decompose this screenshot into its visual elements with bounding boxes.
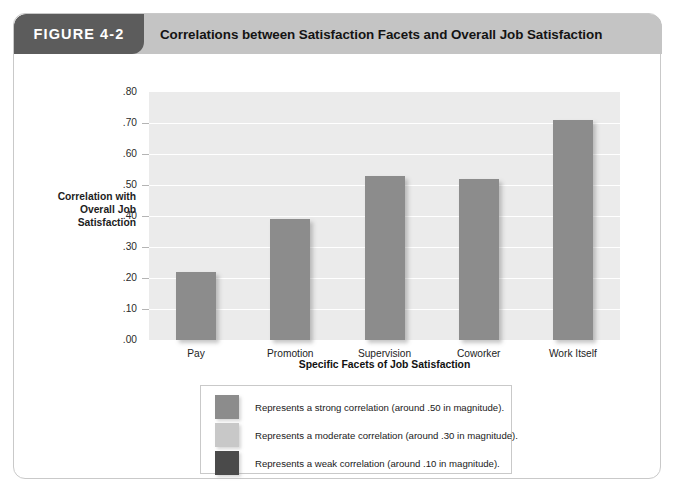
y-axis-tick-mark (142, 216, 149, 217)
y-axis-tick-mark (142, 154, 149, 155)
y-axis-tick-label: .30 (103, 241, 137, 252)
legend-item: Represents a moderate correlation (aroun… (215, 423, 505, 447)
chart-region: Correlation withOverall JobSatisfaction … (14, 54, 662, 364)
legend-label: Represents a moderate correlation (aroun… (255, 430, 518, 441)
y-axis-tick-label: .70 (103, 117, 137, 128)
y-axis-tick-label: .40 (103, 210, 137, 221)
bar (365, 176, 405, 340)
y-axis-tick-label: .00 (103, 334, 137, 345)
figure-header: FIGURE 4-2 Correlations between Satisfac… (14, 14, 662, 54)
y-axis-title-line: Correlation with (24, 190, 136, 203)
y-axis-tick-mark (142, 278, 149, 279)
figure-title: Correlations between Satisfaction Facets… (160, 14, 602, 54)
bar (270, 219, 310, 340)
figure-number-label: FIGURE 4-2 (34, 26, 125, 42)
legend-item: Represents a strong correlation (around … (215, 395, 505, 419)
y-axis-tick-mark (142, 309, 149, 310)
y-axis-tick-label: .50 (103, 179, 137, 190)
gridline (149, 154, 620, 155)
legend-swatch (215, 395, 239, 419)
legend-label: Represents a strong correlation (around … (255, 402, 504, 413)
y-axis-tick-label: .10 (103, 303, 137, 314)
figure-number-badge: FIGURE 4-2 (14, 14, 144, 54)
legend-swatch (215, 423, 239, 447)
legend: Represents a strong correlation (around … (200, 385, 512, 474)
y-axis-tick-mark (142, 185, 149, 186)
bar (176, 272, 216, 340)
y-axis-tick-label: .80 (103, 86, 137, 97)
gridline (149, 123, 620, 124)
bar (553, 120, 593, 340)
legend-swatch (215, 451, 239, 475)
y-axis-tick-mark (142, 123, 149, 124)
y-axis-tick-mark (142, 247, 149, 248)
figure-card: FIGURE 4-2 Correlations between Satisfac… (13, 13, 661, 479)
x-axis-title: Specific Facets of Job Satisfaction (149, 359, 620, 370)
plot-area (149, 92, 620, 340)
legend-label: Represents a weak correlation (around .1… (255, 458, 500, 469)
bar (459, 179, 499, 340)
y-axis-tick-label: .60 (103, 148, 137, 159)
x-axis-category-label: Work Itself (518, 348, 628, 359)
legend-item: Represents a weak correlation (around .1… (215, 451, 505, 475)
y-axis-tick-label: .20 (103, 272, 137, 283)
